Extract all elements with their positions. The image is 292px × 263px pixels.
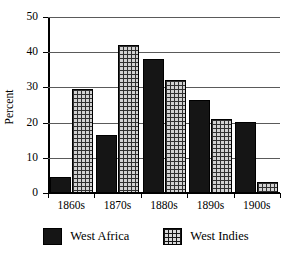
bar-chart-figure: Percent 01020304050 1860s1870s1880s1890s… bbox=[0, 0, 292, 263]
y-tick-label: 40 bbox=[8, 46, 38, 58]
y-tick-mark bbox=[43, 123, 48, 124]
y-axis-line bbox=[48, 17, 50, 193]
x-tick-label-1890s: 1890s bbox=[187, 199, 233, 212]
legend-label-west-africa: West Africa bbox=[70, 230, 129, 243]
bar-1880s-west-africa bbox=[143, 59, 164, 193]
y-tick-label: 20 bbox=[8, 117, 38, 129]
x-tick-mark bbox=[48, 193, 49, 198]
x-tick-label-1880s: 1880s bbox=[141, 199, 187, 212]
y-tick-mark bbox=[43, 17, 48, 18]
bar-1870s-west-indies bbox=[118, 45, 139, 193]
y-tick-mark bbox=[43, 52, 48, 53]
x-tick-mark bbox=[187, 193, 188, 198]
y-axis-title: Percent bbox=[2, 62, 16, 152]
x-tick-mark bbox=[141, 193, 142, 198]
bar-1860s-west-africa bbox=[50, 177, 71, 193]
y-tick-label: 10 bbox=[8, 152, 38, 164]
bar-1860s-west-indies bbox=[72, 89, 93, 193]
bar-1870s-west-africa bbox=[96, 135, 117, 193]
x-tick-label-1860s: 1860s bbox=[48, 199, 94, 212]
chart-legend: West Africa West Indies bbox=[0, 228, 292, 245]
plot-area: 01020304050 1860s1870s1880s1890s1900s bbox=[48, 17, 280, 193]
x-tick-mark bbox=[280, 193, 281, 198]
x-tick-mark bbox=[94, 193, 95, 198]
y-tick-mark bbox=[43, 87, 48, 88]
y-tick-label: 50 bbox=[8, 11, 38, 23]
legend-entry-west-africa: West Africa bbox=[43, 228, 129, 245]
bar-1900s-west-africa bbox=[235, 122, 256, 193]
legend-swatch-west-africa-icon bbox=[43, 228, 62, 245]
bar-1900s-west-indies bbox=[257, 182, 278, 193]
bar-1880s-west-indies bbox=[165, 80, 186, 193]
gridline bbox=[48, 52, 280, 53]
x-tick-label-1870s: 1870s bbox=[94, 199, 140, 212]
legend-label-west-indies: West Indies bbox=[190, 230, 248, 243]
gridline bbox=[48, 17, 280, 18]
legend-swatch-west-indies-icon bbox=[163, 228, 182, 245]
bar-1890s-west-indies bbox=[211, 119, 232, 193]
y-tick-label: 0 bbox=[8, 187, 38, 199]
y-tick-mark bbox=[43, 158, 48, 159]
x-tick-mark bbox=[234, 193, 235, 198]
bar-1890s-west-africa bbox=[189, 100, 210, 193]
y-tick-label: 30 bbox=[8, 81, 38, 93]
x-tick-label-1900s: 1900s bbox=[234, 199, 280, 212]
legend-entry-west-indies: West Indies bbox=[163, 228, 248, 245]
